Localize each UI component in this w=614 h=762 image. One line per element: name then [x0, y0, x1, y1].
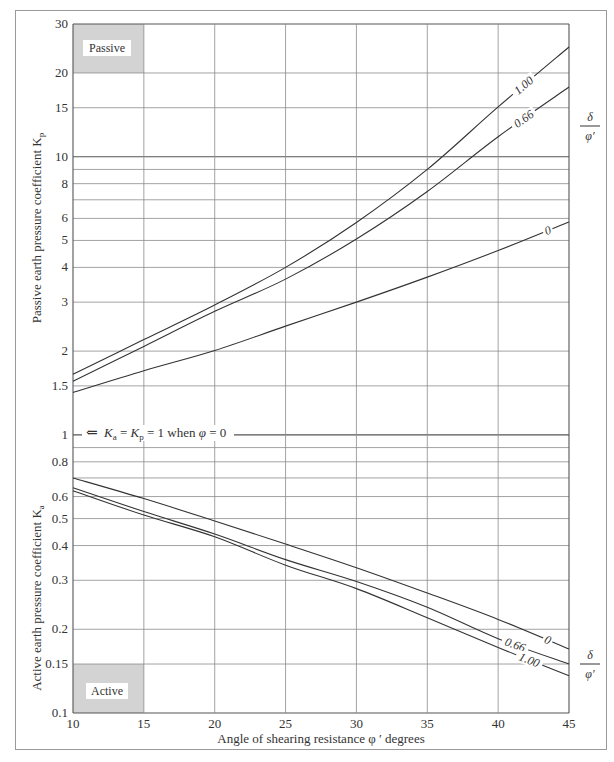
- active-1-00-label: 1.00: [514, 648, 545, 671]
- legend-passive: δ φ′: [580, 110, 600, 143]
- y-tick-label: 0.2: [52, 621, 68, 636]
- passive-0-label: 0: [540, 222, 555, 239]
- x-tick-label: 45: [563, 716, 576, 731]
- active-0-label: 0: [540, 632, 555, 649]
- unity-annotation: ⇐ Ka = Kp = 1 when φ = 0: [82, 425, 234, 442]
- y-tick-label: 0.8: [52, 454, 68, 469]
- shaded-regions: [73, 24, 144, 713]
- x-tick-label: 40: [492, 716, 505, 731]
- curve-labels: 1.000.66000.661.00: [500, 71, 555, 672]
- y-tick-label: 10: [55, 149, 68, 164]
- y-tick-label: 6: [62, 210, 69, 225]
- x-tick-label: 10: [67, 716, 80, 731]
- y-tick-label: 1.5: [52, 378, 68, 393]
- x-tick-label: 20: [208, 716, 221, 731]
- y-tick-label: 0.4: [52, 538, 69, 553]
- y-tick-label: 8: [62, 176, 69, 191]
- y-tick-label: 3: [62, 294, 69, 309]
- y-tick-label: 0.6: [52, 489, 69, 504]
- legend-delta-active: δ: [587, 648, 593, 662]
- legend-active: δ φ′: [580, 648, 600, 681]
- y-tick-label: 1: [62, 427, 69, 442]
- active-curve-0: [73, 478, 569, 649]
- axis-ticks: 302015108654321.510.80.60.50.40.30.20.15…: [45, 16, 575, 731]
- y-tick-label: 4: [62, 259, 69, 274]
- y-tick-label: 0.5: [52, 511, 68, 526]
- unity-annotation-text: ⇐ Ka = Kp = 1 when φ = 0: [86, 425, 226, 442]
- active-y-axis-title: Active earth pressure coefficient Ka: [29, 505, 46, 691]
- x-axis-title: Angle of shearing resistance φ ′ degrees: [217, 731, 424, 746]
- passive-curve-1-00: [73, 47, 569, 374]
- x-tick-label: 25: [279, 716, 292, 731]
- y-tick-label: 15: [55, 100, 68, 115]
- active-curve-0-66: [73, 488, 569, 664]
- legend-phi-active: φ′: [585, 667, 595, 681]
- y-tick-label: 30: [55, 16, 68, 31]
- legend-delta: δ: [587, 110, 593, 124]
- active-region-label-box: Active: [86, 683, 128, 699]
- passive-curve-0: [73, 222, 569, 393]
- passive-curve-0-66: [73, 87, 569, 381]
- gridlines: [73, 24, 569, 713]
- passive-0-66-label: 0.66: [508, 105, 539, 133]
- y-tick-label: 0.3: [52, 572, 68, 587]
- legend-phi: φ′: [585, 129, 595, 143]
- left-arrow-icon: ⇐: [86, 425, 98, 440]
- active-region-label: Active: [91, 684, 123, 698]
- y-tick-label: 2: [62, 343, 69, 358]
- x-tick-label: 15: [137, 716, 150, 731]
- y-tick-label: 5: [62, 232, 69, 247]
- passive-1-00-label: 1.00: [508, 71, 538, 100]
- y-tick-label: 20: [55, 65, 68, 80]
- passive-y-axis-title: Passive earth pressure coefficient Kp: [29, 132, 46, 323]
- passive-region-label: Passive: [89, 41, 125, 55]
- passive-region-label-box: Passive: [83, 40, 131, 56]
- x-tick-label: 35: [421, 716, 434, 731]
- x-tick-label: 30: [350, 716, 363, 731]
- y-tick-label: 0.15: [45, 656, 68, 671]
- curves: [73, 47, 569, 676]
- earth-pressure-chart: 1.000.66000.661.00 302015108654321.510.8…: [0, 0, 614, 762]
